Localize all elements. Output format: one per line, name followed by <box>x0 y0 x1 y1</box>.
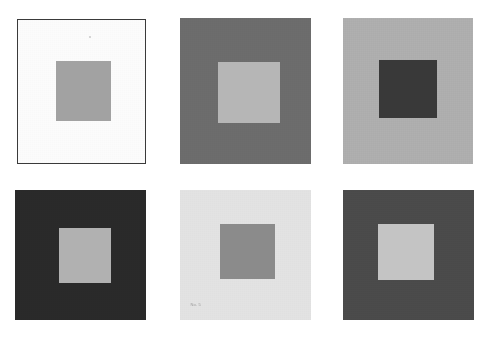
inner-square-bottom-left <box>59 228 111 283</box>
panel-bottom-left <box>15 190 146 320</box>
panel-top-left <box>17 19 146 164</box>
inner-square-top-center <box>218 62 280 123</box>
paper-speck <box>89 36 91 38</box>
inner-square-top-right <box>379 60 437 118</box>
panel-top-center <box>180 18 311 164</box>
panel-bottom-right <box>343 190 474 320</box>
panel-mark-bottom-center: No. 5 <box>190 302 201 307</box>
contrast-figure: No. 5 <box>0 0 491 337</box>
panel-top-right <box>343 18 473 164</box>
inner-square-top-left <box>56 61 111 121</box>
panel-bottom-center: No. 5 <box>180 190 311 320</box>
inner-square-bottom-right <box>378 224 434 280</box>
inner-square-bottom-center <box>220 224 275 279</box>
